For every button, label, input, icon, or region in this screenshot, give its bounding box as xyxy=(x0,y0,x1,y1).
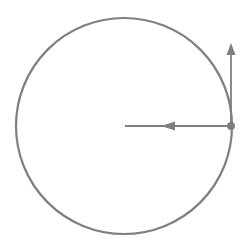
centripetal-arrowhead-icon xyxy=(161,122,175,131)
velocity-arrowhead-icon xyxy=(227,43,236,55)
circular-motion-diagram xyxy=(0,0,251,250)
moving-point xyxy=(227,122,235,130)
